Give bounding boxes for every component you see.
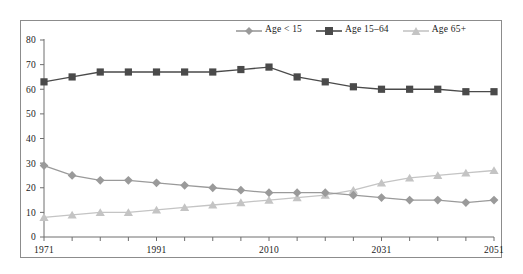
legend-swatch-square-icon — [316, 23, 342, 35]
x-axis-tick-label: 1991 — [147, 245, 167, 255]
series-age-15-64 — [40, 63, 497, 95]
x-axis-tick-label: 2031 — [372, 245, 392, 255]
data-point-marker[interactable] — [40, 78, 47, 85]
x-axis-tick-label: 2010 — [259, 245, 279, 255]
data-point-marker[interactable] — [461, 198, 470, 207]
legend-label-age-15-64: Age 15–64 — [345, 24, 389, 34]
data-point-marker[interactable] — [406, 86, 413, 93]
chart-legend: Age < 15 Age 15–64 Age 65+ — [236, 21, 466, 37]
y-axis-tick-label: 20 — [26, 183, 36, 193]
data-point-marker[interactable] — [490, 88, 497, 95]
data-point-marker[interactable] — [181, 68, 188, 75]
data-point-marker[interactable] — [180, 181, 189, 190]
data-point-marker[interactable] — [208, 183, 217, 192]
data-point-marker[interactable] — [322, 78, 329, 85]
y-axis-tick-label: 50 — [26, 109, 36, 119]
data-point-marker[interactable] — [265, 188, 274, 197]
data-point-marker[interactable] — [125, 68, 132, 75]
x-axis: 19711991201020312051 — [34, 237, 504, 255]
chart-container: Age < 15 Age 15–64 Age 65+ 0102030405060… — [0, 0, 523, 274]
data-point-marker[interactable] — [433, 196, 442, 205]
y-axis: 01020304050607080 — [26, 35, 44, 242]
data-point-marker[interactable] — [97, 68, 104, 75]
data-point-marker[interactable] — [294, 73, 301, 80]
legend-label-age-65-plus: Age 65+ — [432, 24, 466, 34]
x-axis-tick-label: 2051 — [484, 245, 504, 255]
data-point-marker[interactable] — [209, 68, 216, 75]
legend-swatch-triangle-icon — [403, 23, 429, 35]
data-point-marker[interactable] — [40, 161, 49, 170]
data-point-marker[interactable] — [434, 86, 441, 93]
data-point-marker[interactable] — [405, 196, 414, 205]
chart-plot-area: 01020304050607080 19711991201020312051 — [0, 0, 523, 274]
legend-item-age-65-plus[interactable]: Age 65+ — [403, 23, 466, 35]
legend-label-age-under-15: Age < 15 — [265, 24, 302, 34]
data-point-marker[interactable] — [378, 86, 385, 93]
data-point-marker[interactable] — [152, 178, 161, 187]
y-axis-tick-label: 30 — [26, 159, 36, 169]
x-axis-tick-label: 1971 — [34, 245, 54, 255]
data-point-marker[interactable] — [236, 186, 245, 195]
data-point-marker[interactable] — [490, 196, 499, 205]
data-point-marker[interactable] — [69, 73, 76, 80]
data-point-marker[interactable] — [96, 176, 105, 185]
legend-swatch-diamond-icon — [236, 23, 262, 35]
data-point-marker[interactable] — [124, 176, 133, 185]
data-point-marker[interactable] — [350, 83, 357, 90]
y-axis-tick-label: 80 — [26, 35, 36, 45]
data-series-group — [39, 63, 498, 220]
legend-item-age-under-15[interactable]: Age < 15 — [236, 23, 302, 35]
y-axis-tick-label: 0 — [31, 232, 36, 242]
y-axis-tick-label: 40 — [26, 134, 36, 144]
legend-item-age-15-64[interactable]: Age 15–64 — [316, 23, 389, 35]
y-axis-tick-label: 10 — [26, 208, 36, 218]
data-point-marker[interactable] — [293, 188, 302, 197]
data-point-marker[interactable] — [265, 63, 272, 70]
data-point-marker[interactable] — [153, 68, 160, 75]
y-axis-tick-label: 70 — [26, 60, 36, 70]
data-point-marker[interactable] — [462, 88, 469, 95]
data-point-marker[interactable] — [377, 193, 386, 202]
y-axis-tick-label: 60 — [26, 85, 36, 95]
series-line — [44, 67, 494, 92]
data-point-marker[interactable] — [237, 66, 244, 73]
data-point-marker[interactable] — [68, 171, 77, 180]
